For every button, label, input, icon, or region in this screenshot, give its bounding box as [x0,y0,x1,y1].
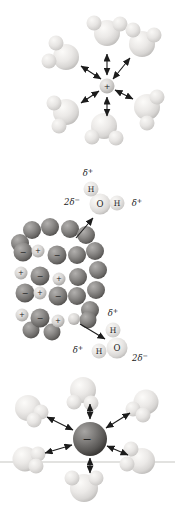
water-hydrogen-sphere [140,116,155,131]
attraction-arrow [81,91,99,103]
figure-ion-solvation-diagram: + −+−+−+−+−+−+OHHδ+2δ−δ+OHHδ+δ+2δ− − [0,0,175,507]
partial-charge-label: 2δ− [63,196,80,207]
lattice-ion-charge-label: − [22,289,29,298]
water-hydrogen-sphere [109,131,124,146]
atom-symbol-label: O [97,199,104,209]
water-hydrogen-sphere [85,130,100,145]
water-hydrogen-sphere [126,23,141,38]
ion-charge-label: − [82,433,91,446]
lattice-cation-sphere [68,313,80,325]
panel-crystal-dissolution: −+−+−+−+−+−+OHHδ+2δ−δ+OHHδ+δ+2δ− [11,167,148,363]
water-hydrogen-sphere [84,396,99,411]
lattice-ion-charge-label: − [37,314,44,323]
lattice-ion-charge-label: + [18,269,24,277]
lattice-anion-sphere [87,281,105,299]
water-hydrogen-sphere [113,17,128,32]
lattice-anion-sphere [68,246,86,264]
water-hydrogen-sphere [147,28,162,43]
partial-charge-label: δ+ [83,167,94,178]
atom-symbol-label: H [96,347,103,356]
panel-cation-hydration: + [42,16,165,146]
water-hydrogen-sphere [150,90,165,105]
lattice-ion-charge-label: − [20,248,27,257]
attraction-arrow [115,90,133,99]
water-hydrogen-sphere [49,36,64,51]
lattice-ion-charge-label: + [55,317,61,325]
lattice-ion-charge-label: + [37,289,43,297]
attraction-arrow [81,66,101,79]
water-hydrogen-sphere [136,408,151,423]
lattice-ion-charge-label: + [19,311,25,319]
lattice-anion-sphere [41,218,59,236]
atom-symbol-label: H [110,326,117,335]
water-hydrogen-sphere [27,413,42,428]
attraction-arrow [106,413,130,428]
attraction-arrow [45,445,72,453]
lattice-ion-charge-label: − [37,272,44,281]
solvation-figure-canvas: + −+−+−+−+−+−+OHHδ+2δ−δ+OHHδ+δ+2δ− − [0,0,175,507]
atom-symbol-label: O [114,343,121,353]
panel-anion-hydration: − [13,377,159,502]
water-hydrogen-sphere [67,395,82,410]
lattice-anion-sphere [68,287,86,305]
partial-charge-label: 2δ− [131,352,148,363]
attraction-arrow [47,417,73,430]
lattice-anion-sphere [80,312,97,329]
lattice-anion-sphere [77,226,95,244]
water-hydrogen-sphere [52,119,67,134]
partial-charge-label: δ+ [108,307,119,318]
lattice-anion-sphere [69,268,87,286]
water-hydrogen-sphere [29,459,44,474]
ion-charge-label: + [104,82,111,91]
lattice-ion-charge-label: − [54,251,61,260]
partial-charge-label: δ+ [132,197,143,208]
atom-symbol-label: H [88,185,95,194]
water-hydrogen-sphere [65,471,80,486]
lattice-anion-sphere [61,220,79,238]
lattice-ion-charge-label: + [56,275,62,283]
water-hydrogen-sphere [47,96,62,111]
lattice-ion-charge-label: − [55,292,62,301]
attraction-arrow [113,58,130,79]
water-hydrogen-sphere [120,457,135,472]
water-hydrogen-sphere [87,16,102,31]
partial-charge-label: δ+ [73,344,84,355]
lattice-anion-sphere [86,242,104,260]
water-hydrogen-sphere [42,54,57,69]
lattice-ion-charge-label: + [35,247,41,255]
water-hydrogen-sphere [89,471,104,486]
lattice-anion-sphere [89,261,107,279]
atom-symbol-label: H [114,199,121,208]
